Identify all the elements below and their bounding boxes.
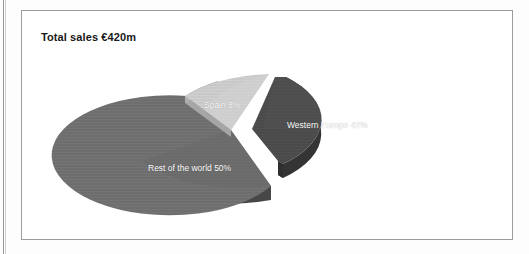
pie-label-rest-of-the-world: Rest of the world 50% — [148, 163, 231, 173]
page-margin-rule-secondary — [5, 0, 6, 254]
pie-label-western-europe: Western Europe 42% — [287, 120, 368, 130]
page-canvas: Total sales €420m — [0, 0, 529, 254]
page-margin-rule — [3, 0, 4, 254]
chart-frame: Total sales €420m — [21, 10, 513, 240]
pie-label-spain: Spain 8% — [204, 100, 240, 110]
pie-chart: Western Europe 42% Rest of the world 50%… — [22, 11, 514, 241]
pie-chart-graphic — [22, 11, 514, 241]
